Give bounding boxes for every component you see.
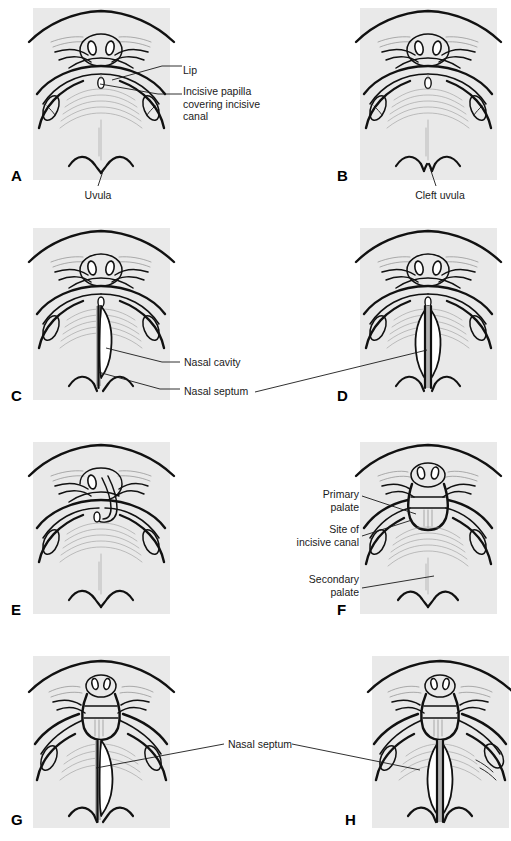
- leader-primary-palate: [362, 496, 422, 518]
- leader-nasal-septum-h: [292, 740, 424, 774]
- leader-lip: [112, 62, 190, 84]
- label-incisive-papilla: Incisive papilla covering incisive canal: [183, 85, 260, 123]
- leader-nasal-cavity: [106, 348, 186, 370]
- leader-secondary-palate: [362, 576, 440, 590]
- label-uvula: Uvula: [68, 189, 128, 202]
- figure-cleft-palate-variations: A Lip Incisive papilla covering incisive…: [0, 0, 511, 841]
- leader-uvula: [96, 168, 114, 190]
- label-primary-palate: Primary palate: [255, 488, 359, 513]
- panel-e-drawing: [33, 442, 170, 614]
- panel-b-drawing: [360, 8, 497, 180]
- label-site-incisive-canal: Site of incisive canal: [235, 523, 359, 548]
- panel-letter-g: G: [11, 812, 23, 827]
- label-nasal-cavity: Nasal cavity: [184, 356, 241, 369]
- leader-cleft-uvula: [424, 168, 444, 190]
- panel-letter-h: H: [345, 812, 356, 827]
- label-nasal-septum-cd: Nasal septum: [184, 385, 248, 398]
- leader-nasal-septum-g: [96, 740, 228, 772]
- panel-letter-b: B: [337, 168, 348, 183]
- leader-incisive-papilla: [100, 84, 190, 102]
- panel-e: [33, 442, 170, 614]
- leader-site-incisive-canal: [362, 520, 418, 540]
- label-secondary-palate: Secondary palate: [250, 573, 359, 598]
- label-nasal-septum-gh: Nasal septum: [222, 738, 298, 751]
- label-cleft-uvula: Cleft uvula: [390, 189, 490, 202]
- panel-letter-e: E: [11, 602, 21, 617]
- panel-letter-c: C: [11, 388, 22, 403]
- leader-nasal-septum-d: [255, 348, 435, 396]
- label-lip: Lip: [183, 64, 197, 77]
- panel-letter-f: F: [337, 602, 346, 617]
- leader-nasal-septum-c: [98, 372, 186, 394]
- panel-letter-a: A: [11, 168, 22, 183]
- panel-b: [360, 8, 497, 180]
